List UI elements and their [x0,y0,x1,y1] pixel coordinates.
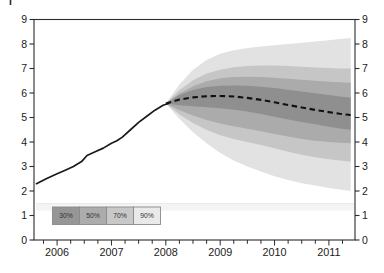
legend-label-70%: 70% [113,212,127,219]
legend-label-30%: 30% [59,212,73,219]
y-axis-label-right: 2 [362,185,368,197]
y-axis-label-left: 6 [21,87,27,99]
x-axis-year-label: 2007 [99,246,123,258]
y-axis-label-right: 1 [362,209,368,221]
y-axis-label-left: 9 [21,13,27,25]
fan-chart-canvas: 0011223344556677889920062007200820092010… [0,0,384,273]
y-axis-label-right: 9 [362,13,368,25]
y-axis-label-left: 8 [21,38,27,50]
y-axis-label-left: 4 [21,136,27,148]
y-axis-label-right: 3 [362,160,368,172]
y-axis-label-right: 0 [362,234,368,246]
x-axis-year-label: 2009 [208,246,232,258]
y-axis-label-right: 8 [362,38,368,50]
y-axis-label-right: 4 [362,136,368,148]
x-axis-year-label: 2008 [154,246,178,258]
y-axis-label-left: 2 [21,185,27,197]
y-axis-label-right: 5 [362,111,368,123]
x-axis-year-label: 2011 [317,246,340,258]
legend-label-90%: 90% [140,212,154,219]
y-axis-label-left: 0 [21,234,27,246]
y-axis-label-left: 3 [21,160,27,172]
y-axis-label-left: 5 [21,111,27,123]
history-line [36,104,168,184]
x-axis-year-label: 2010 [263,246,287,258]
x-axis-year-label: 2006 [45,246,69,258]
y-axis-label-right: 7 [362,62,368,74]
fan-chart-figure: 0011223344556677889920062007200820092010… [0,0,384,273]
legend-label-50%: 50% [86,212,100,219]
y-axis-label-right: 6 [362,87,368,99]
y-axis-label-left: 1 [21,209,27,221]
y-axis-label-left: 7 [21,62,27,74]
